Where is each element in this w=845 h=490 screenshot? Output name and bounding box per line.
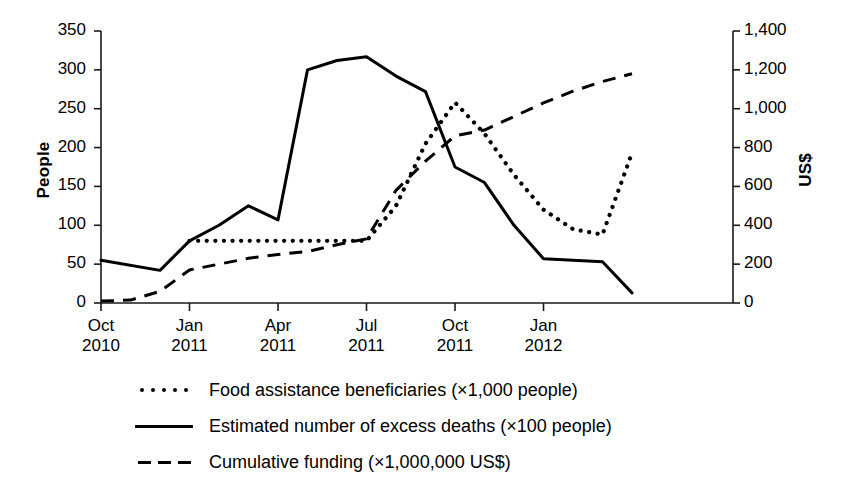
legend-swatch-solid bbox=[133, 417, 195, 435]
series-line-dashed bbox=[101, 74, 632, 301]
legend-label-food-assistance: Food assistance beneficiaries (×1,000 pe… bbox=[209, 380, 578, 401]
chart-figure: People US$ 050100150200250300350 0200400… bbox=[0, 0, 845, 490]
legend-label-excess-deaths: Estimated number of excess deaths (×100 … bbox=[209, 416, 612, 437]
legend-label-cumulative-funding: Cumulative funding (×1,000,000 US$) bbox=[209, 452, 511, 473]
legend-item: Cumulative funding (×1,000,000 US$) bbox=[0, 444, 845, 480]
series-line-solid bbox=[101, 57, 632, 293]
legend-item: Estimated number of excess deaths (×100 … bbox=[0, 408, 845, 444]
series-line-dotted bbox=[190, 102, 633, 240]
legend-item: Food assistance beneficiaries (×1,000 pe… bbox=[0, 372, 845, 408]
legend-swatch-dashed bbox=[133, 453, 195, 471]
legend-swatch-dotted bbox=[133, 381, 195, 399]
chart-legend: Food assistance beneficiaries (×1,000 pe… bbox=[0, 372, 845, 480]
